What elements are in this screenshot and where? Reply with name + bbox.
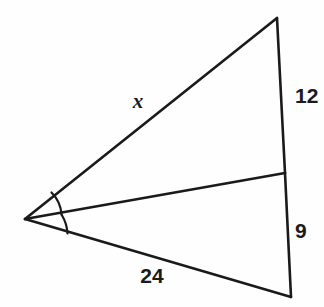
segment-angle-bisector <box>25 173 285 219</box>
label-12: 12 <box>295 84 318 107</box>
segment-12-side <box>277 18 285 173</box>
segment-9-side <box>285 173 291 297</box>
geometry-diagram-canvas: x 12 9 24 <box>0 0 324 307</box>
label-9: 9 <box>295 219 307 242</box>
label-24: 24 <box>140 264 164 287</box>
segment-x-side <box>25 18 277 219</box>
geometry-figure-container: x 12 9 24 <box>0 0 324 307</box>
label-x: x <box>132 89 144 113</box>
